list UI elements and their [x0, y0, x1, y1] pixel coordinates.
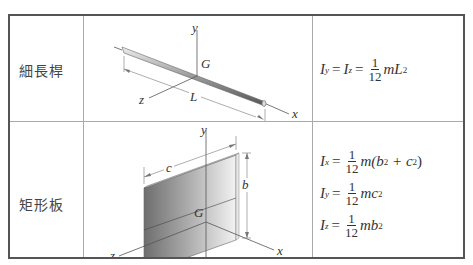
fraction: 112 [344, 148, 359, 175]
fraction: 112 [367, 56, 382, 83]
formula-rod-iy-iz: Iy = Iz = 112 mL2 [320, 56, 407, 83]
center-label: G [194, 205, 204, 220]
x-axis-line [264, 103, 289, 114]
width-label: c [166, 160, 172, 175]
center-label: G [201, 56, 211, 71]
column-divider-2 [312, 16, 313, 257]
shape-label-rectangular-plate: 矩形板 [19, 194, 64, 214]
formula-plate-iy: Iy = 112 mc2 [320, 180, 382, 207]
length-label: L [189, 89, 197, 104]
formula-plate-ix: Ix = 112 m(b2 + c2) [320, 148, 422, 175]
fraction: 112 [344, 180, 359, 207]
fraction: 112 [344, 212, 359, 239]
moment-of-inertia-table: 細長桿 y G z L x Iy = Iz [8, 14, 465, 259]
plate-face [144, 155, 236, 257]
z-axis-label: z [109, 248, 115, 257]
y-axis-label: y [199, 122, 207, 137]
slender-rod-figure: y G z L x [84, 16, 312, 121]
height-label: b [242, 177, 249, 192]
x-axis-label: x [291, 106, 298, 121]
x-axis-label: x [276, 243, 283, 257]
formula-plate-iz: Iz = 112 mb2 [320, 212, 383, 239]
rectangular-plate-figure: y c G b z x [84, 122, 312, 257]
shape-label-slender-rod: 細長桿 [19, 60, 64, 80]
y-axis-label: y [190, 20, 198, 35]
z-axis-label: z [138, 92, 144, 107]
